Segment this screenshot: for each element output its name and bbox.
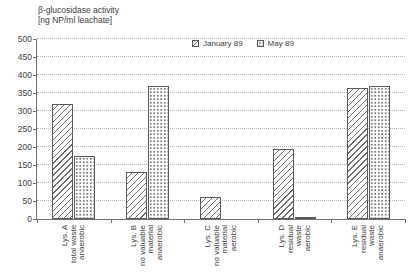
y-axis-label-400: 400 bbox=[8, 70, 32, 80]
x-axis-line bbox=[36, 219, 405, 220]
gridline-450 bbox=[37, 56, 405, 57]
x-axis-label-lys-d: Lys. Dresidualwasteaerobic bbox=[278, 225, 312, 275]
gridline-500 bbox=[37, 38, 405, 39]
x-tick-1 bbox=[111, 219, 112, 223]
y-axis-label-150: 150 bbox=[8, 160, 32, 170]
bar-may-89-lys-e bbox=[369, 86, 390, 219]
bar-january-89-lys-b bbox=[126, 172, 147, 219]
bar-january-89-lys-a bbox=[52, 104, 73, 219]
legend: January 89 May 89 bbox=[188, 38, 298, 49]
x-axis-label-lys-a: Lys. Atotal wasteanaerobic bbox=[61, 225, 87, 275]
bar-may-89-lys-a bbox=[74, 156, 95, 219]
x-axis-label-lys-c: Lys. Cno valuablematerialaerobic bbox=[204, 225, 238, 275]
x-axis-label-lys-e: Lys. Eresidualwasteanaerobic bbox=[351, 225, 385, 275]
bar-january-89-lys-d bbox=[273, 149, 294, 219]
chart-title-line2: [ng NP/ml leachate] bbox=[38, 15, 119, 25]
legend-item-may-89: May 89 bbox=[257, 39, 294, 48]
gridline-400 bbox=[37, 74, 405, 75]
chart-title: β-glucosidase activity [ng NP/ml leachat… bbox=[38, 5, 119, 25]
bar-january-89-lys-e bbox=[347, 88, 368, 219]
y-axis-label-300: 300 bbox=[8, 106, 32, 116]
legend-label-may-89: May 89 bbox=[268, 39, 294, 48]
bar-january-89-lys-c bbox=[200, 197, 221, 219]
may-89-series-swatch-icon bbox=[257, 40, 264, 47]
x-tick-4 bbox=[331, 219, 332, 223]
y-axis-label-100: 100 bbox=[8, 178, 32, 188]
y-axis-label-250: 250 bbox=[8, 124, 32, 134]
y-axis-label-50: 50 bbox=[8, 196, 32, 206]
x-tick-3 bbox=[258, 219, 259, 223]
y-axis-label-200: 200 bbox=[8, 142, 32, 152]
y-axis-label-450: 450 bbox=[8, 52, 32, 62]
y-axis-line bbox=[36, 39, 37, 220]
bar-may-89-lys-b bbox=[148, 86, 169, 219]
y-axis-label-350: 350 bbox=[8, 88, 32, 98]
legend-item-january-89: January 89 bbox=[192, 39, 243, 48]
x-axis-label-lys-b: Lys. Bno valuablematerialanaerobic bbox=[130, 225, 164, 275]
bar-may-89-lys-d bbox=[295, 217, 316, 219]
y-axis-label-0: 0 bbox=[8, 214, 32, 224]
x-tick-0 bbox=[37, 219, 38, 223]
y-axis-label-500: 500 bbox=[8, 34, 32, 44]
bar-chart: β-glucosidase activity [ng NP/ml leachat… bbox=[0, 0, 415, 276]
x-tick-5 bbox=[405, 219, 406, 223]
x-tick-2 bbox=[184, 219, 185, 223]
legend-label-january-89: January 89 bbox=[203, 39, 243, 48]
chart-title-line1: β-glucosidase activity bbox=[38, 5, 119, 15]
january-89-series-swatch-icon bbox=[192, 40, 199, 47]
